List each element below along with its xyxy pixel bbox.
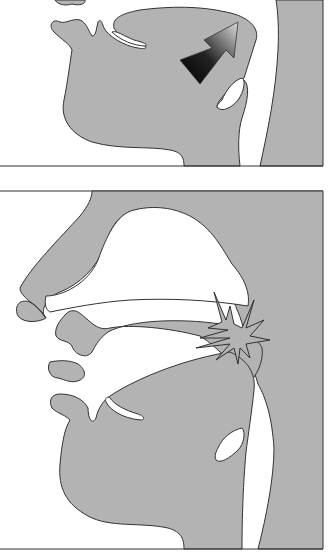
upper-lip <box>55 0 85 5</box>
bottom-panel <box>0 188 333 558</box>
top-vocal-tract-diagram <box>0 0 333 170</box>
lower-lip <box>48 361 84 382</box>
bottom-vocal-tract-diagram <box>0 188 333 558</box>
top-panel <box>0 0 333 170</box>
pharynx-wall <box>260 0 323 166</box>
